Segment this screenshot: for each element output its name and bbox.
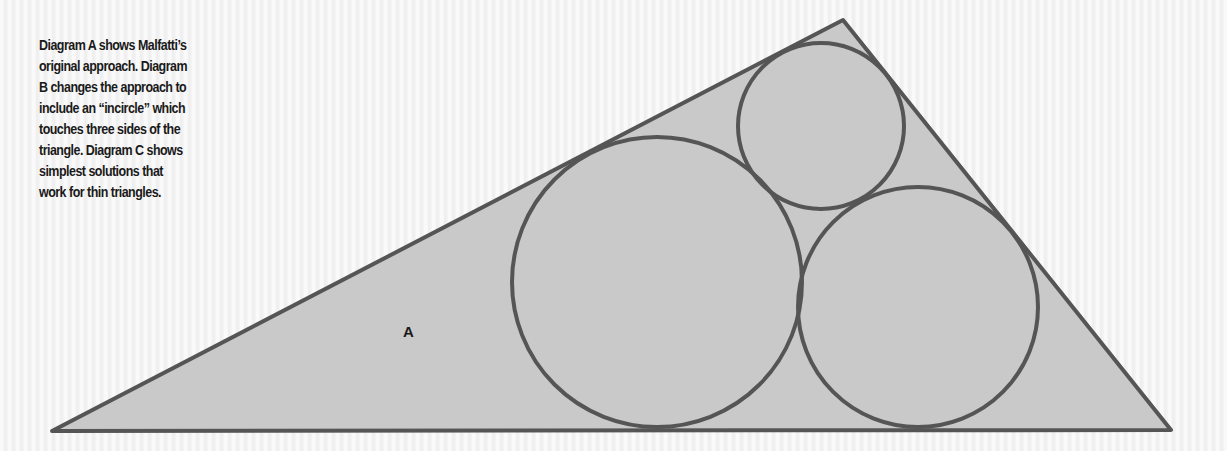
malfatti-diagram: A (0, 0, 1227, 451)
diagram-label: A (403, 323, 414, 340)
triangle (52, 20, 1171, 431)
